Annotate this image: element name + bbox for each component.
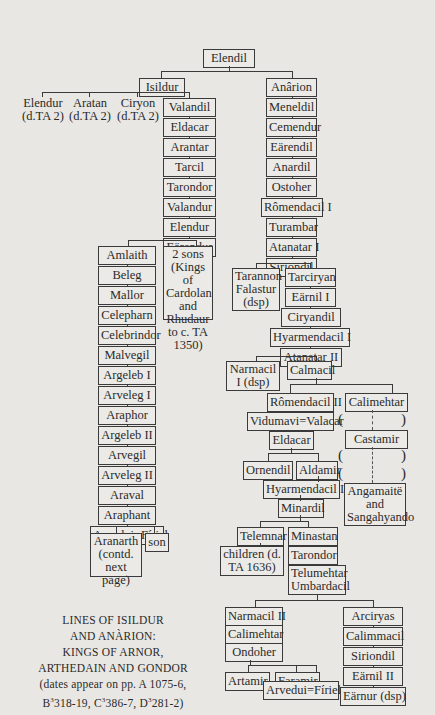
node-king: Eärnil II <box>343 667 403 686</box>
node-telumehtar: Telumehtar Umbardacil <box>288 565 346 595</box>
paren-open: ( <box>338 447 343 463</box>
node-elendur-son: Elendur(d.TA 2) <box>18 97 68 123</box>
node-king: Arveleg II <box>98 466 156 485</box>
caption-dates: (dates appear on pp. A 1075-6, <box>38 676 188 692</box>
node-king: Tarciryan <box>285 268 336 287</box>
node-king: Valandil <box>163 98 216 117</box>
connector <box>373 600 374 607</box>
connector <box>161 71 162 78</box>
node-king: Araphant <box>98 506 156 525</box>
node-king: Argeleb II <box>98 426 156 445</box>
tarciryan-column: Tarciryan Eärnil I Ciryandil Hyarmendaci… <box>285 268 365 363</box>
connector <box>392 384 393 393</box>
connector <box>260 521 308 522</box>
node-king: Eärendil <box>266 138 317 157</box>
connector <box>296 665 297 672</box>
node-king: Calimmacil <box>343 627 403 646</box>
paren-close: ) <box>401 411 406 427</box>
connector <box>255 600 256 607</box>
connector <box>290 384 291 393</box>
connector <box>161 71 293 72</box>
node-king: Arvegil <box>98 446 156 465</box>
arthedain-column: Amlaith Beleg Mallor Celepharn Celebrind… <box>98 246 156 531</box>
node-king: Turambar <box>266 218 317 237</box>
connector <box>268 453 318 454</box>
connector <box>318 476 319 482</box>
node-king: Araval <box>98 486 156 505</box>
connector <box>116 526 154 527</box>
caption-line: LINES OF ISILDUR <box>38 612 188 628</box>
node-hyarmendacil-ii: Hyarmendacil II <box>263 480 340 499</box>
node-calimehtar-2: Calimehtar <box>225 625 283 644</box>
node-king: Rômendacil I <box>261 198 323 217</box>
node-king: Arciryas <box>343 607 403 626</box>
node-king: Eldacar <box>163 118 216 137</box>
node-king: Celebrindor <box>98 326 156 345</box>
paren-open: ( <box>338 465 343 481</box>
node-king: Amlaith <box>98 246 156 265</box>
node-king: Elendur <box>163 218 216 237</box>
connector <box>256 263 311 264</box>
node-king: Celepharn <box>98 306 156 325</box>
connector <box>318 453 319 461</box>
node-king: Cemendur <box>266 118 317 137</box>
connector <box>248 665 316 666</box>
paren-close: ) <box>401 447 406 463</box>
paren-open: ( <box>338 411 343 427</box>
paren-close: ) <box>401 465 406 481</box>
connector <box>116 526 117 533</box>
node-isildur: Isildur <box>139 78 185 97</box>
node-king: Ciryandil <box>281 308 341 327</box>
node-king: Araphor <box>98 406 156 425</box>
connector-dashed <box>372 447 374 483</box>
node-calimehtar: Calimehtar <box>345 393 408 412</box>
caption-line: AND ANÀRION: <box>38 628 188 644</box>
node-son: son <box>145 533 169 552</box>
node-ondoher: Ondoher <box>225 643 283 662</box>
node-king: Tarcil <box>163 158 216 177</box>
node-king: Hyarmendacil I <box>270 328 350 347</box>
node-arvedui-firiel-2: Arvedui=Fíriel <box>263 681 339 700</box>
node-minardil: Minardil <box>278 499 324 518</box>
node-angamaite: Angamaitë and Sangahyando <box>344 483 406 526</box>
node-king: Mallor <box>98 286 156 305</box>
node-two-sons: 2 sons (Kings of Cardolan and Rhudaur to… <box>163 246 213 320</box>
node-calmacil: Calmacil <box>287 361 332 380</box>
anarion-kings-column: Meneldil Cemendur Eärendil Anardil Ostoh… <box>266 98 317 269</box>
connector <box>260 543 261 547</box>
connector <box>292 71 293 78</box>
node-children: children (d. TA 1636) <box>220 546 284 576</box>
node-king: Beleg <box>98 266 156 285</box>
caption-line: KINGS OF ARNOR, <box>38 644 188 660</box>
node-king: Ostoher <box>266 178 317 197</box>
isildur-kings-column: Valandil Eldacar Arantar Tarcil Tarondor… <box>163 98 216 250</box>
connector <box>256 356 316 357</box>
node-king: Arveleg I <box>98 386 156 405</box>
caption: LINES OF ISILDUR AND ANÀRION: KINGS OF A… <box>38 612 188 711</box>
node-king: Siriondil <box>343 647 403 666</box>
node-king: Valandur <box>163 198 216 217</box>
node-narmacil-i: Narmacil I (dsp) <box>226 361 280 391</box>
connector <box>290 384 392 385</box>
node-king: Eärnil I <box>285 288 336 307</box>
node-king: Argeleb I <box>98 366 156 385</box>
connector <box>300 495 301 501</box>
node-king: Malvegil <box>98 346 156 365</box>
caption-dates-refs: B3318-19, C3386-7, D3281-2) <box>38 692 188 711</box>
node-romendacil-ii: Rômendacil II <box>267 393 334 412</box>
connector <box>154 526 155 533</box>
node-minastan: Minastan <box>288 527 338 546</box>
connector <box>268 453 269 461</box>
node-anarion: Anârion <box>266 78 317 97</box>
node-king: Eärnur (dsp) <box>340 687 406 706</box>
connector <box>42 92 190 93</box>
node-aranarth: Aranarth (contd. next page) <box>90 533 142 577</box>
node-king: Meneldil <box>266 98 317 117</box>
node-king: Tarondor <box>163 178 216 197</box>
node-ciryon: Ciryon(d.TA 2) <box>114 97 162 123</box>
node-ornendil: Ornendil <box>243 461 293 480</box>
node-tarondor: Tarondor <box>288 546 338 565</box>
caption-line: ARTHEDAIN AND GONDOR <box>38 660 188 676</box>
node-king: Atanatar I <box>266 238 317 257</box>
node-king: Arantar <box>163 138 216 157</box>
